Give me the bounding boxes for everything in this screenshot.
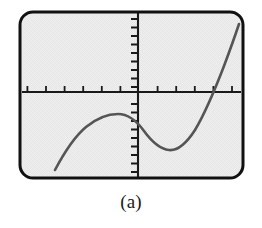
figure-container: (a) (0, 0, 262, 228)
figure-caption: (a) (0, 192, 262, 211)
calculator-screen (18, 10, 245, 180)
graph-plot (18, 10, 245, 180)
screen-background (20, 12, 243, 178)
